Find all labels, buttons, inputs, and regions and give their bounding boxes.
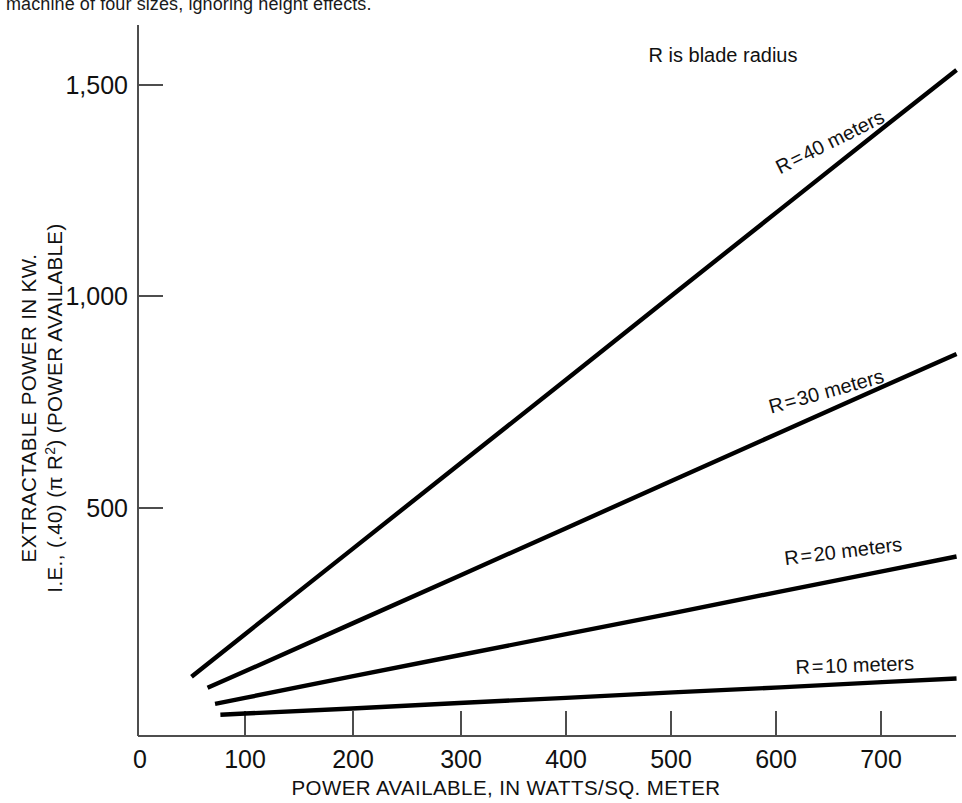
y-tick-label-1000: 1,000	[65, 282, 128, 310]
y-axis-title-suffix: ) (POWER AVAILABLE)	[43, 223, 66, 446]
figure-container: machine of four sizes, ignoring height e…	[0, 0, 962, 803]
blade-radius-note: R is blade radius	[649, 44, 798, 66]
series-label-r40: R = 40 meters	[772, 105, 888, 178]
x-axis-title: POWER AVAILABLE, IN WATTS/SQ. METER	[291, 776, 720, 799]
y-tick-label-500: 500	[86, 494, 128, 522]
y-axis-title-line2: I.E., (.40) (π R2) (POWER AVAILABLE)	[42, 223, 66, 592]
x-tick-label-100: 100	[224, 745, 266, 773]
series-line-r10	[220, 678, 956, 714]
x-tick-group: 0 100 200 300 400 500 600 700	[133, 711, 902, 773]
y-tick-label-1500: 1,500	[65, 71, 128, 99]
series-line-r30	[208, 354, 957, 688]
x-tick-label-300: 300	[440, 745, 482, 773]
y-axis-title-exponent: 2	[42, 447, 58, 455]
y-axis-title-pi-r: π R	[43, 455, 66, 491]
line-chart: 1,500 1,000 500 0 100 200 300 400 500 60…	[0, 0, 962, 803]
x-tick-label-700: 700	[860, 745, 902, 773]
x-tick-label-400: 400	[545, 745, 587, 773]
series-label-group: R = 40 meters R = 30 meters R = 20 meter…	[766, 105, 914, 678]
series-label-r20: R = 20 meters	[783, 533, 903, 569]
y-axis-title-prefix: I.E., (.40) (	[43, 491, 66, 593]
y-tick-group: 1,500 1,000 500	[65, 71, 163, 522]
x-tick-label-200: 200	[332, 745, 374, 773]
x-tick-label-600: 600	[755, 745, 797, 773]
x-tick-label-500: 500	[650, 745, 692, 773]
series-line-r40	[192, 70, 957, 677]
y-axis-title-line1: EXTRACTABLE POWER IN KW.	[17, 254, 40, 563]
series-line-r20	[215, 557, 957, 704]
x-tick-label-0: 0	[133, 745, 147, 773]
series-label-r10: R = 10 meters	[795, 652, 914, 678]
